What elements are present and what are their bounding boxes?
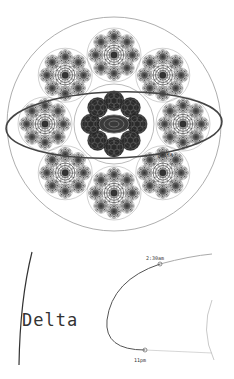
detail-panel: Delta 2:30am 11pm	[19, 252, 214, 365]
time-label-230am: 2:30am	[146, 255, 164, 261]
orbit-curve-light	[160, 254, 212, 264]
orbit-baseline	[145, 350, 212, 353]
time-label-11pm: 11pm	[134, 357, 146, 364]
orbit-curve-dark	[107, 264, 160, 350]
right-arc	[206, 300, 214, 360]
left-arc	[19, 252, 32, 365]
detail-title: Delta	[22, 310, 78, 330]
delta-diagram: Delta Delta 2:30am 11pm	[0, 0, 234, 379]
fractal-circle-pattern	[7, 17, 221, 231]
